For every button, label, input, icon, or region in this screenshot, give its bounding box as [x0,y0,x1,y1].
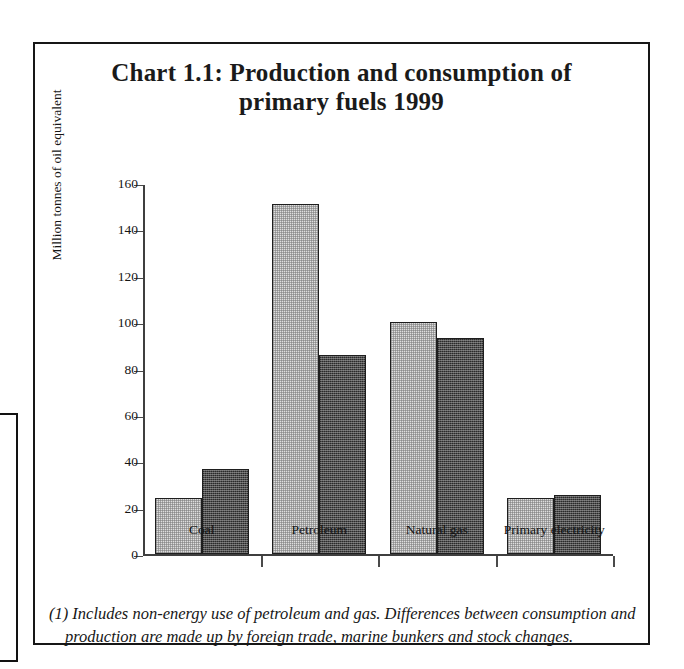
y-tick-label: 100 [118,315,138,331]
bar-production [272,204,319,554]
adjacent-panel-edge [0,413,18,662]
chart-title-line-1: Chart 1.1: Production and consumption of [111,59,571,86]
bar-production [390,322,437,554]
y-tick-label: 40 [125,454,139,470]
x-axis-end-tick [613,556,615,567]
y-tick-label: 160 [118,176,138,192]
x-axis-label: Coal [143,522,261,538]
category-separator-tick [261,556,263,567]
bar-consumption [202,469,249,554]
y-tick-label: 120 [118,269,138,285]
plot-area: Million tonnes of oil equivalent 1601401… [35,140,648,580]
y-axis-title: Million tonnes of oil equivalent [49,60,65,290]
x-axis-label: Petroleum [261,522,379,538]
x-axis-label: Primary electricity [496,522,614,538]
chart-panel: Chart 1.1: Production and consumption of… [33,42,650,645]
x-axis-label: Natural gas [378,522,496,538]
chart-title-line-2: primary fuels 1999 [61,87,622,116]
category-separator-tick [378,556,380,567]
y-tick-label: 140 [118,222,138,238]
chart-title: Chart 1.1: Production and consumption of… [35,44,648,117]
y-tick-label: 80 [125,362,139,378]
footnote: (1) Includes non-energy use of petroleum… [49,602,645,649]
y-tick-label: 20 [125,501,139,517]
axes: 160140120100806040200 [143,185,613,556]
y-tick-label: 0 [131,547,138,563]
category-separator-tick [496,556,498,567]
y-axis-line [143,185,145,556]
y-tick-label: 60 [125,408,139,424]
